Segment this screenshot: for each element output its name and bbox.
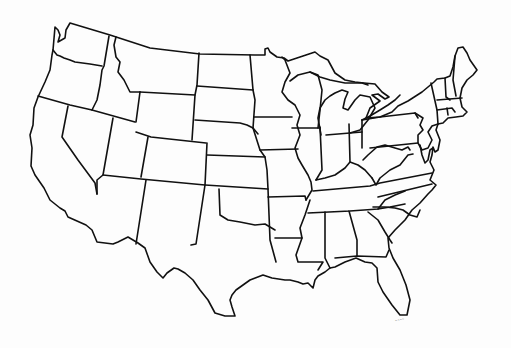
- border-ne-ks: [207, 155, 265, 157]
- border-al-ga: [349, 211, 357, 256]
- border-sd-ne: [195, 120, 253, 128]
- border-ut-az: [103, 175, 205, 185]
- border-wa-id: [92, 36, 109, 110]
- border-az-nm: [136, 180, 146, 244]
- border-mi-in-oh: [326, 132, 362, 135]
- border-ne-ia-mo: [253, 128, 276, 262]
- border-id-ut-wy: [136, 92, 140, 122]
- border-in-oh: [349, 124, 350, 162]
- border-nv-ut: [97, 118, 113, 194]
- border-or-ca-nv: [38, 96, 135, 122]
- border-mt-wy: [140, 92, 195, 95]
- border-nc-va: [378, 184, 432, 197]
- outline-michigan-up: [290, 72, 368, 85]
- border-mt-nd: [192, 53, 199, 140]
- outline-michigan-lp: [318, 90, 375, 135]
- us-outline-map: [0, 0, 511, 348]
- border-ohio-river: [316, 162, 372, 180]
- border-ct-ma: [437, 108, 455, 112]
- border-ny-ne: [431, 83, 438, 124]
- border-ks-ok: [205, 185, 268, 189]
- border-wa-or: [53, 50, 102, 66]
- national-outline: [30, 23, 477, 316]
- border-al-ga-fl: [335, 250, 389, 258]
- border-nd-sd: [197, 86, 253, 90]
- shore-wi-east: [310, 72, 322, 128]
- border-co-ks: [191, 143, 207, 245]
- border-ga-sc: [368, 212, 392, 243]
- border-ct-ri: [447, 108, 448, 115]
- border-ca-nv: [62, 106, 97, 194]
- border-la-ms: [296, 200, 323, 270]
- border-tn-south: [308, 204, 405, 213]
- border-ia-mo: [260, 149, 298, 150]
- border-ut-co: [141, 137, 148, 177]
- border-id-mt: [114, 37, 140, 92]
- border-mo-ar: [268, 196, 306, 200]
- border-ms-al: [325, 212, 330, 268]
- border-ma-north: [437, 98, 462, 100]
- border-nd-mn: [250, 55, 258, 134]
- border-vt-nh: [445, 78, 450, 100]
- border-ok-tx: [219, 189, 275, 230]
